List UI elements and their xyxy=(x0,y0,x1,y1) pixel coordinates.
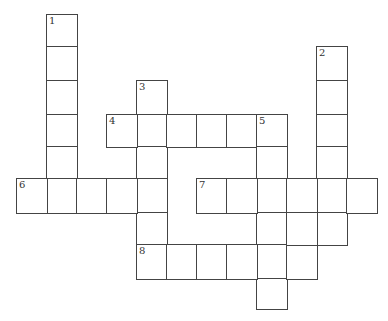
crossword-cell[interactable] xyxy=(46,146,78,180)
crossword-cell[interactable] xyxy=(256,178,288,214)
crossword-cell[interactable] xyxy=(196,114,228,148)
crossword-cell[interactable]: 5 xyxy=(256,114,288,148)
clue-number: 8 xyxy=(139,246,145,256)
clue-number: 1 xyxy=(49,16,55,26)
clue-number: 5 xyxy=(259,116,265,126)
crossword-cell[interactable] xyxy=(226,244,258,280)
clue-number: 2 xyxy=(319,48,325,58)
crossword-cell[interactable] xyxy=(46,46,78,82)
crossword-cell[interactable] xyxy=(76,178,108,214)
clue-number: 7 xyxy=(199,180,205,190)
crossword-cell[interactable] xyxy=(316,212,348,246)
crossword-cell[interactable] xyxy=(136,146,168,180)
crossword-cell[interactable] xyxy=(316,114,348,148)
crossword-cell[interactable] xyxy=(316,146,348,180)
crossword-cell[interactable] xyxy=(286,244,318,280)
crossword-cell[interactable] xyxy=(196,244,228,280)
crossword-cell[interactable]: 8 xyxy=(136,244,168,280)
crossword-cell[interactable]: 2 xyxy=(316,46,348,82)
crossword-cell[interactable]: 1 xyxy=(46,14,78,48)
crossword-cell[interactable] xyxy=(46,80,78,116)
crossword-cell[interactable] xyxy=(136,178,168,214)
crossword-cell[interactable] xyxy=(46,114,78,148)
crossword-cell[interactable] xyxy=(256,146,288,180)
crossword-cell[interactable] xyxy=(226,114,258,148)
crossword-cell[interactable] xyxy=(256,212,288,246)
clue-number: 6 xyxy=(19,180,25,190)
clue-number: 4 xyxy=(109,116,115,126)
crossword-cell[interactable] xyxy=(256,244,288,280)
crossword-cell[interactable] xyxy=(166,114,198,148)
crossword-cell[interactable] xyxy=(256,278,288,310)
crossword-cell[interactable] xyxy=(46,178,78,214)
clue-number: 3 xyxy=(139,82,145,92)
crossword-cell[interactable] xyxy=(106,178,138,214)
crossword-cell[interactable] xyxy=(346,178,378,214)
crossword-cell[interactable] xyxy=(286,212,318,246)
crossword-cell[interactable] xyxy=(136,212,168,246)
crossword-cell[interactable]: 4 xyxy=(106,114,138,148)
crossword-cell[interactable] xyxy=(166,244,198,280)
crossword-cell[interactable]: 7 xyxy=(196,178,228,214)
crossword-cell[interactable] xyxy=(226,178,258,214)
crossword-cell[interactable]: 6 xyxy=(16,178,48,214)
crossword-cell[interactable] xyxy=(136,114,168,148)
crossword-cell[interactable] xyxy=(316,178,348,214)
crossword-cell[interactable] xyxy=(316,80,348,116)
crossword-cell[interactable] xyxy=(286,178,318,214)
crossword-cell[interactable]: 3 xyxy=(136,80,168,116)
